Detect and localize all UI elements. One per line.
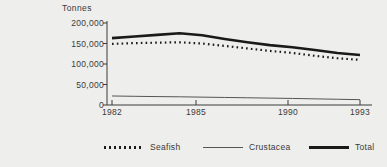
legend-swatch-thick-icon xyxy=(309,142,349,152)
legend-label: Crustacea xyxy=(249,142,290,152)
series-line-crustacea xyxy=(112,96,360,100)
chart-legend: Seafish Crustacea Total xyxy=(0,140,387,156)
legend-item-total: Total xyxy=(309,140,374,154)
legend-label: Seafish xyxy=(150,142,180,152)
legend-item-seafish: Seafish xyxy=(104,140,180,154)
chart-container: Tonnes 200,000 150,000 100,000 50,000 0 … xyxy=(0,0,387,167)
series-line-total xyxy=(112,33,360,55)
legend-swatch-dotted-icon xyxy=(104,142,144,152)
legend-label: Total xyxy=(355,142,374,152)
legend-swatch-thin-icon xyxy=(203,142,243,152)
legend-item-crustacea: Crustacea xyxy=(203,140,290,154)
